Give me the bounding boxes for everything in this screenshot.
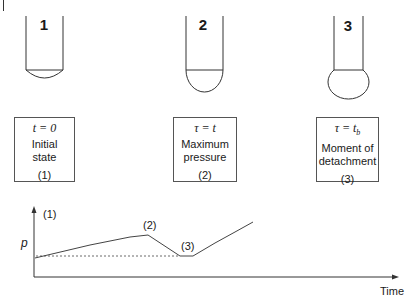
state-3-time-sub: b [356, 128, 360, 137]
tube-2-number: 2 [199, 16, 207, 33]
state-3-title-line2: detachment [317, 155, 378, 168]
state-2-time: τ = t [174, 122, 236, 135]
tube-1-number: 1 [40, 16, 48, 33]
state-1-title-line2: state [15, 151, 74, 164]
y-axis-label: p [21, 236, 28, 250]
tube-3-number: 3 [344, 17, 352, 34]
state-2-title-line1: Maximum [174, 138, 236, 151]
x-axis-label: Time [380, 285, 404, 297]
graph-mark-3: (3) [181, 240, 194, 252]
state-box-initial: t = 0 Initial state (1) [14, 117, 75, 182]
state-3-time: τ = tb [317, 122, 378, 139]
state-3-index: (3) [317, 173, 378, 186]
state-1-title-line1: Initial [15, 138, 74, 151]
state-1-time: t = 0 [15, 122, 74, 135]
graph-mark-1: (1) [43, 208, 56, 220]
state-2-index: (2) [174, 169, 236, 182]
state-3-time-main: τ = t [335, 121, 357, 135]
state-3-title-line1: Moment of [317, 142, 378, 155]
state-box-detachment: τ = tb Moment of detachment (3) [316, 117, 379, 182]
state-1-index: (1) [15, 169, 74, 182]
state-2-title-line2: pressure [174, 151, 236, 164]
graph-mark-2: (2) [143, 219, 156, 231]
state-box-max-pressure: τ = t Maximum pressure (2) [173, 117, 237, 182]
